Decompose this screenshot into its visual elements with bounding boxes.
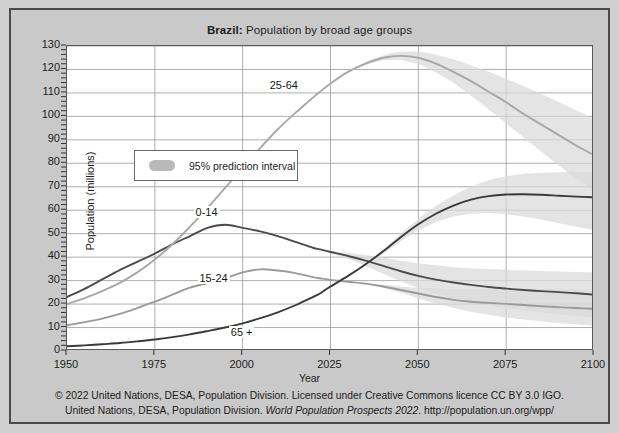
chart-title-country: Brazil:: [207, 24, 243, 36]
y-axis-tick-label: 110: [20, 85, 60, 97]
legend-box[interactable]: 95% prediction interval: [134, 150, 298, 181]
series-label-65: 65 +: [229, 326, 255, 338]
plot-area-wrapper: 95% prediction interval Population (mill…: [66, 45, 593, 350]
series-label-0-14: 0-14: [194, 206, 220, 218]
x-axis-tick-label: 1950: [36, 358, 96, 370]
x-axis-tick-label: 2025: [300, 358, 360, 370]
chart-footer: © 2022 United Nations, DESA, Population …: [0, 388, 619, 418]
y-axis-tick-label: 70: [20, 179, 60, 191]
legend-swatch-prediction-interval: [149, 160, 175, 171]
footer-line-2-suffix: . http://population.un.org/wpp/: [418, 405, 554, 416]
chart-figure: Brazil: Population by broad age groups 9…: [0, 0, 619, 433]
y-axis-tick-label: 130: [20, 38, 60, 50]
x-axis-tick-label: 2050: [387, 358, 447, 370]
y-axis-tick-label: 20: [20, 296, 60, 308]
series-label-25-64: 25-64: [268, 79, 300, 91]
x-axis-tick-label: 1975: [124, 358, 184, 370]
x-axis-title: Year: [0, 372, 619, 384]
y-axis-title: Population (millions): [84, 81, 96, 321]
y-axis-tick-label: 80: [20, 155, 60, 167]
chart-svg: [67, 46, 593, 350]
footer-line-2: United Nations, DESA, Population Divisio…: [0, 403, 619, 418]
y-axis-tick-label: 120: [20, 61, 60, 73]
footer-publication-title: World Population Prospects 2022: [265, 405, 418, 416]
y-axis-tick-label: 0: [20, 343, 60, 355]
y-axis-tick-label: 90: [20, 132, 60, 144]
y-axis-tick-label: 10: [20, 320, 60, 332]
y-axis-tick-label: 50: [20, 226, 60, 238]
chart-title: Brazil: Population by broad age groups: [0, 24, 619, 36]
y-axis-tick-label: 30: [20, 273, 60, 285]
x-axis-tick-label: 2000: [212, 358, 272, 370]
y-axis-tick-label: 60: [20, 202, 60, 214]
x-axis-tick-label: 2075: [475, 358, 535, 370]
y-axis-tick-label: 40: [20, 249, 60, 261]
footer-line-1: © 2022 United Nations, DESA, Population …: [0, 388, 619, 403]
plot-area: [66, 45, 593, 350]
footer-line-2-prefix: United Nations, DESA, Population Divisio…: [65, 405, 265, 416]
legend-label-prediction-interval: 95% prediction interval: [189, 160, 295, 172]
y-axis-tick-label: 100: [20, 108, 60, 120]
series-label-15-24: 15-24: [197, 272, 229, 284]
x-axis-tick-label: 2100: [563, 358, 619, 370]
chart-title-rest: Population by broad age groups: [243, 24, 412, 36]
